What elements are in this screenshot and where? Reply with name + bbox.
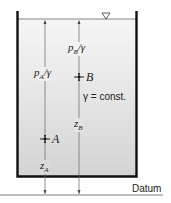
label-gamma-const: γ = const. — [83, 92, 126, 102]
free-surface-triangle-icon — [102, 13, 110, 19]
label-datum: Datum — [132, 184, 161, 194]
label-pb-over-gamma: pB/γ — [68, 42, 85, 56]
label-point-a: A — [52, 133, 59, 145]
label-pa-over-gamma: pA/γ — [34, 67, 51, 81]
arrow-b-bottom-icon — [78, 190, 81, 194]
label-z-a: zA — [40, 160, 49, 174]
label-point-b: B — [86, 71, 93, 83]
arrow-a-bottom-icon — [44, 190, 47, 194]
label-z-b: zB — [74, 118, 83, 132]
